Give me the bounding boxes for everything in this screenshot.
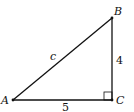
vertex-label-c: C — [116, 94, 125, 107]
side-label-c: c — [50, 50, 56, 63]
vertex-a-dot — [12, 99, 15, 102]
vertex-label-b: B — [113, 5, 122, 18]
side-c-hypotenuse — [13, 18, 112, 100]
vertex-b-dot — [111, 17, 114, 20]
right-angle-marker — [104, 92, 112, 100]
vertex-c-dot — [111, 99, 114, 102]
triangle-figure: A B C c 4 5 — [0, 0, 134, 112]
vertex-label-a: A — [0, 94, 9, 107]
side-label-4: 4 — [116, 54, 123, 67]
right-triangle-diagram: A B C c 4 5 — [0, 0, 134, 112]
side-label-5: 5 — [62, 101, 69, 112]
